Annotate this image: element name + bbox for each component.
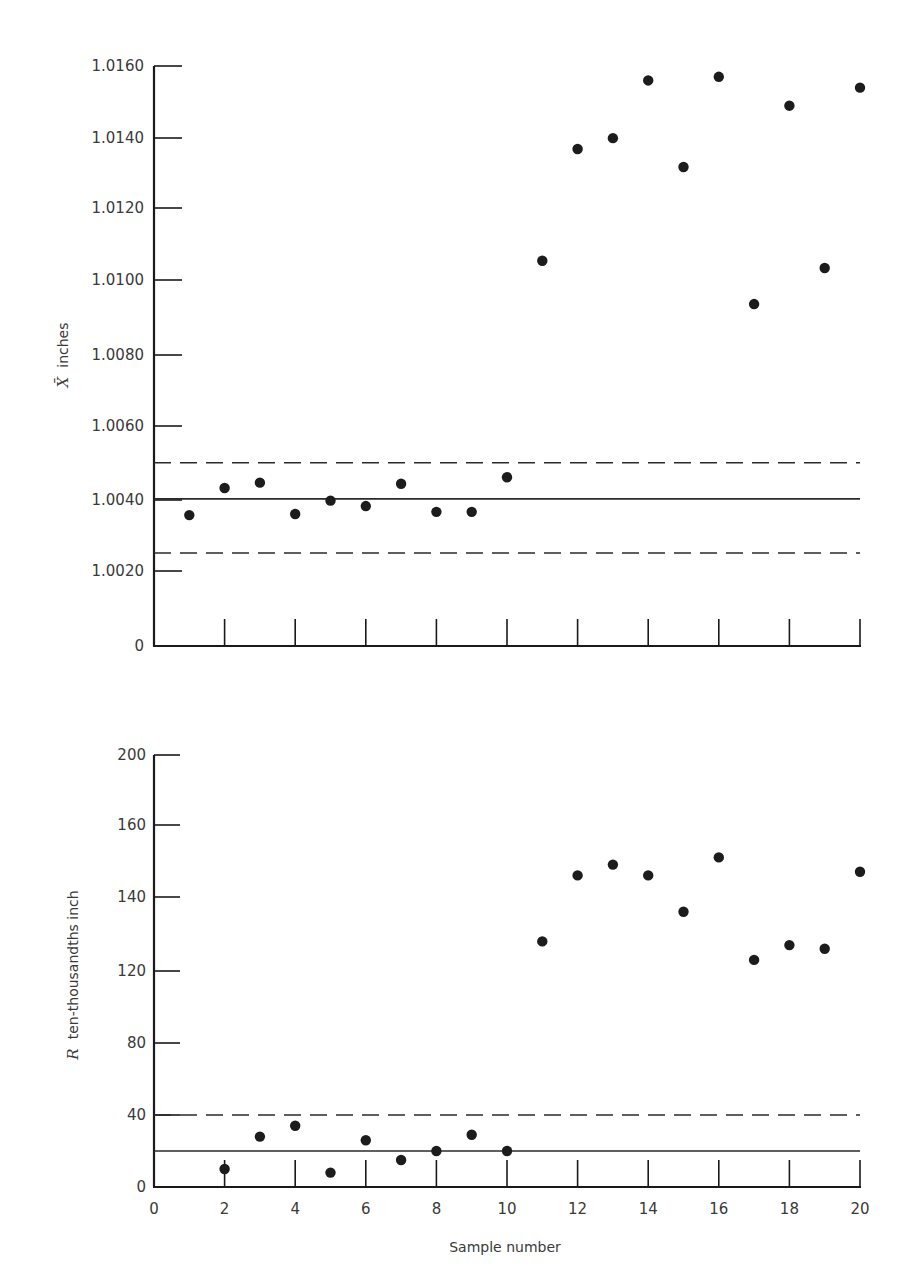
y-tick-label: 1.0120 [92, 199, 145, 217]
y-tick-label: 120 [117, 962, 146, 980]
data-point [572, 144, 582, 154]
data-point [678, 162, 688, 172]
y-axis-title: R ten-thousandths inch [63, 890, 82, 1060]
data-point [784, 940, 794, 950]
y-tick-label: 1.0100 [92, 271, 145, 289]
x-tick-label: 8 [432, 1200, 442, 1218]
data-point [255, 1131, 265, 1141]
y-ticks: 04080120140160200 [117, 746, 180, 1196]
data-point [467, 1130, 477, 1140]
y-tick-label: 200 [117, 746, 146, 764]
x-tick-label: 4 [290, 1200, 300, 1218]
x-tick-label: 12 [568, 1200, 587, 1218]
data-point [678, 907, 688, 917]
y-tick-label: 80 [127, 1034, 146, 1052]
y-tick-label: 1.0140 [92, 129, 145, 147]
data-point [502, 472, 512, 482]
y-tick-label: 1.0080 [92, 346, 145, 364]
svg-text:R ten-thousandths inch: R ten-thousandths inch [63, 890, 82, 1060]
ylabel-text: inches [55, 322, 71, 367]
x-tick-label: 16 [709, 1200, 728, 1218]
data-point [714, 852, 724, 862]
data-point [749, 955, 759, 965]
ylabel-symbol: X̄ [54, 376, 72, 389]
y-tick-label: 1.0020 [92, 562, 145, 580]
control-charts: 01.00201.00401.00601.00801.01001.01201.0… [0, 0, 909, 1284]
y-tick-label: 160 [117, 816, 146, 834]
data-point [467, 507, 477, 517]
data-point [820, 944, 830, 954]
data-point [820, 263, 830, 273]
data-point [290, 509, 300, 519]
x-ticks [225, 619, 860, 646]
x-tick-label: 18 [780, 1200, 799, 1218]
x-tick-label: 14 [639, 1200, 658, 1218]
y-tick-label: 1.0040 [92, 491, 145, 509]
xbar-chart: 01.00201.00401.00601.00801.01001.01201.0… [53, 57, 865, 655]
data-point [537, 256, 547, 266]
x-tick-label: 6 [361, 1200, 371, 1218]
data-point [537, 936, 547, 946]
svg-text:X̄ inches: X̄ inches [53, 322, 72, 388]
data-point [325, 1167, 335, 1177]
data-point [325, 495, 335, 505]
data-point [608, 133, 618, 143]
x-ticks: 02468101214161820 [149, 1160, 869, 1218]
data-point [396, 479, 406, 489]
ylabel-text: ten-thousandths inch [65, 890, 81, 1039]
y-tick-label: 1.0060 [92, 417, 145, 435]
range-chart: 04080120140160200 02468101214161820 R te… [63, 746, 870, 1255]
data-point [255, 477, 265, 487]
data-point [396, 1155, 406, 1165]
y-ticks: 01.00201.00401.00601.00801.01001.01201.0… [92, 57, 183, 655]
data-point [714, 72, 724, 82]
y-tick-label: 1.0160 [92, 57, 145, 75]
y-tick-label: 140 [117, 888, 146, 906]
data-point [361, 501, 371, 511]
data-point [572, 870, 582, 880]
data-point [855, 867, 865, 877]
y-tick-label: 0 [134, 637, 144, 655]
data-point [749, 299, 759, 309]
data-point [361, 1135, 371, 1145]
ylabel-symbol: R [64, 1048, 82, 1060]
x-tick-label: 2 [220, 1200, 230, 1218]
data-points [184, 72, 865, 521]
x-axis-title: Sample number [449, 1239, 561, 1255]
data-point [643, 870, 653, 880]
data-point [219, 1164, 229, 1174]
y-axis-title: X̄ inches [53, 322, 72, 388]
y-tick-label: 0 [136, 1178, 146, 1196]
data-points [219, 852, 865, 1178]
data-point [184, 510, 194, 520]
data-point [219, 483, 229, 493]
x-tick-label: 20 [850, 1200, 869, 1218]
data-point [431, 507, 441, 517]
data-point [784, 100, 794, 110]
y-tick-label: 40 [127, 1106, 146, 1124]
data-point [431, 1146, 441, 1156]
data-point [608, 859, 618, 869]
data-point [643, 75, 653, 85]
data-point [290, 1121, 300, 1131]
data-point [855, 82, 865, 92]
data-point [502, 1146, 512, 1156]
x-tick-label: 10 [497, 1200, 516, 1218]
x-tick-label: 0 [149, 1200, 159, 1218]
